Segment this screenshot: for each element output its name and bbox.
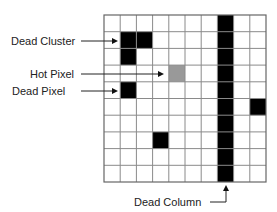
dead-pixel-cell bbox=[120, 48, 136, 65]
hot-pixel-cell bbox=[169, 65, 185, 82]
arrow-dead-column-head bbox=[223, 185, 229, 191]
label-hot-pixel: Hot Pixel bbox=[30, 68, 74, 80]
dead-pixel-cell bbox=[250, 99, 266, 116]
dead-pixel-cell bbox=[153, 132, 169, 149]
pixel-defect-diagram: Dead Cluster Hot Pixel Dead Pixel Dead C… bbox=[0, 0, 277, 212]
pixel-grid bbox=[0, 0, 277, 212]
label-dead-cluster: Dead Cluster bbox=[11, 35, 75, 47]
dead-pixel-cell bbox=[120, 82, 136, 99]
label-dead-pixel: Dead Pixel bbox=[12, 85, 65, 97]
dead-pixel-cell bbox=[136, 32, 152, 49]
dead-pixel-cell bbox=[120, 32, 136, 49]
label-dead-column: Dead Column bbox=[134, 196, 201, 208]
